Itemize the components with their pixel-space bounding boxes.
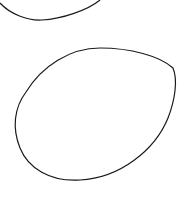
drawing-svg <box>0 0 182 200</box>
top-partial-oval <box>0 0 100 20</box>
drawing-canvas <box>0 0 182 200</box>
egg-shape <box>15 48 175 180</box>
